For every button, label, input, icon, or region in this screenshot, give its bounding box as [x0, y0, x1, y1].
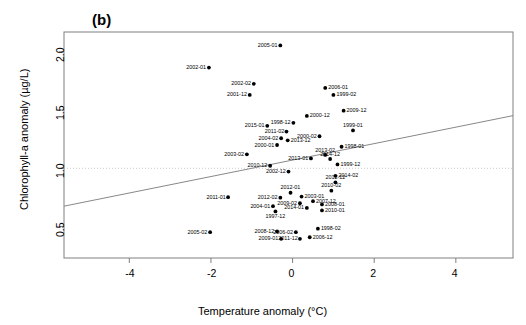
data-point-label: 2012-12 — [325, 175, 345, 180]
data-point-label: 2004-01 — [250, 204, 270, 209]
data-point-label: 2010-01 — [325, 208, 345, 213]
data-point-label: 1999-12 — [340, 162, 360, 167]
data-point-label: 1999-01 — [343, 123, 363, 128]
data-point — [308, 235, 312, 239]
data-point-label: 2009-12 — [347, 108, 367, 113]
data-point — [245, 152, 249, 156]
data-point-label: 1998-12 — [271, 120, 291, 125]
y-tick-label: 0.5 — [54, 222, 66, 237]
data-point-label: 2006-12 — [313, 235, 333, 240]
data-point-label: 2005-02 — [188, 230, 208, 235]
data-point — [279, 136, 283, 140]
data-point — [309, 156, 313, 160]
data-point — [328, 157, 332, 161]
data-point — [265, 124, 269, 128]
data-point — [336, 163, 340, 167]
data-point-label: 2003-02 — [224, 152, 244, 157]
data-point — [291, 121, 295, 125]
data-point — [278, 43, 282, 47]
data-point — [316, 227, 320, 231]
data-point-label: 2012-01 — [281, 185, 301, 190]
data-point — [318, 134, 322, 138]
data-point-label: 2000-12 — [310, 113, 330, 118]
data-point-label: 2010-12 — [248, 163, 268, 168]
data-point — [305, 206, 309, 210]
data-point-label: 2004-02 — [259, 136, 279, 141]
data-point — [226, 195, 230, 199]
data-point — [311, 199, 315, 203]
data-point-label: 2010-02 — [321, 183, 341, 188]
data-point — [329, 189, 333, 193]
data-point-label: 2006-01 — [328, 85, 348, 90]
data-point — [286, 138, 290, 142]
data-point-label: 2001-12 — [227, 92, 247, 97]
data-point-label: 2013-01 — [288, 156, 308, 161]
data-point-label: 2011-01 — [206, 195, 225, 200]
data-point-label: 2002-12 — [266, 169, 286, 174]
data-point — [271, 204, 275, 208]
data-point-label: 2008-12 — [254, 229, 274, 234]
x-tick-label: 2 — [370, 267, 376, 279]
data-point-label: 2002-01 — [186, 65, 206, 70]
data-point-label: 2011-02 — [265, 129, 284, 134]
data-point-label: 2011-12 — [278, 236, 297, 241]
data-point — [342, 109, 346, 113]
x-tick-label: -2 — [207, 267, 216, 279]
data-point — [252, 82, 256, 86]
data-point-label: 2015-01 — [245, 123, 265, 128]
data-point — [300, 195, 304, 199]
data-point-label: 1997-12 — [265, 214, 285, 219]
data-point — [207, 66, 211, 70]
data-point — [289, 191, 293, 195]
data-point — [275, 143, 279, 147]
data-point-label: 2005-01 — [258, 43, 278, 48]
data-point — [285, 130, 289, 134]
data-point — [278, 196, 282, 200]
data-point-label: 2013-12 — [291, 138, 311, 143]
data-point-label: 1998-01 — [345, 144, 365, 149]
data-point-label: 1998-02 — [321, 226, 341, 231]
data-point-label: 2002-02 — [231, 81, 251, 86]
data-point-label: 2014-12 — [320, 152, 340, 157]
data-point — [298, 237, 302, 241]
data-point — [332, 93, 336, 97]
data-point-label: 2000-01 — [254, 143, 274, 148]
data-point — [320, 209, 324, 213]
figure-panel-b: (b) Chlorophyll-a anomaly (µg/L) Tempera… — [0, 0, 526, 325]
y-tick-label: 1.5 — [54, 105, 66, 120]
plot-frame — [64, 32, 513, 258]
data-point — [248, 93, 252, 97]
data-point-label: 2009-01 — [259, 236, 279, 241]
data-point — [287, 170, 291, 174]
x-tick-label: -4 — [125, 267, 134, 279]
y-tick-label: 1.0 — [54, 164, 66, 179]
data-point-label: 2014-01 — [284, 205, 304, 210]
data-point — [294, 230, 298, 234]
data-point-label: 2006-02 — [273, 230, 293, 235]
x-tick-label: 4 — [452, 267, 458, 279]
data-point — [323, 86, 327, 90]
data-point-label: 2012-02 — [258, 195, 278, 200]
data-point — [351, 129, 355, 133]
data-point — [340, 145, 344, 149]
data-point-label: 1999-02 — [336, 92, 356, 97]
data-point — [305, 114, 309, 118]
data-point — [208, 230, 212, 234]
x-tick-label: 0 — [289, 267, 295, 279]
y-tick-label: 2.0 — [54, 47, 66, 62]
